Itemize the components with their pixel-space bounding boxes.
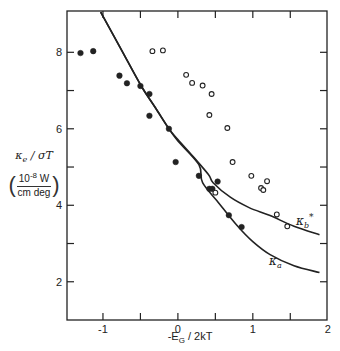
y-tick-label: 2 xyxy=(56,276,62,288)
filled-data-point xyxy=(117,73,123,79)
x-axis-label: -EG / 2kT xyxy=(150,330,230,345)
filled-data-point xyxy=(78,50,84,56)
y-axis-unit-numerator: 10-8 W xyxy=(17,172,51,186)
filled-data-point xyxy=(124,80,130,86)
y-axis-quantity: κe / σT xyxy=(4,150,64,164)
filled-data-point xyxy=(239,224,245,230)
filled-data-point xyxy=(147,113,153,119)
tick-labels: -10122468 xyxy=(56,46,331,335)
x-tick-label: -1 xyxy=(98,323,108,335)
open-data-point xyxy=(200,83,205,88)
filled-data-point xyxy=(166,126,172,132)
filled-data-point xyxy=(138,83,144,89)
y-tick-label: 6 xyxy=(56,123,62,135)
axis-ticks xyxy=(67,11,327,320)
y-tick-label: 8 xyxy=(56,46,62,58)
filled-data-point xyxy=(215,179,221,185)
y-axis-unit: ( 10-8 W cm deg ) xyxy=(4,172,64,197)
open-data-point xyxy=(265,179,270,184)
open-data-point xyxy=(161,48,166,53)
filled-data-point xyxy=(173,159,179,165)
curve-kappa-b-star xyxy=(101,12,320,235)
curve-label-ka: κa xyxy=(269,254,282,270)
curve-kappa-a xyxy=(101,12,320,273)
open-data-point xyxy=(285,224,290,229)
open-data-point xyxy=(213,190,218,195)
open-data-point xyxy=(261,188,266,193)
plot-frame xyxy=(67,11,327,320)
filled-data-point xyxy=(90,48,96,54)
y-tick-label: 4 xyxy=(56,199,62,211)
open-data-point xyxy=(150,49,155,54)
x-tick-label: 2 xyxy=(325,323,331,335)
open-data-point xyxy=(249,173,254,178)
filled-data-point xyxy=(226,212,232,218)
y-axis-unit-denominator: cm deg xyxy=(18,187,51,198)
open-data-point xyxy=(209,92,214,97)
open-data-point xyxy=(184,72,189,77)
open-data-point xyxy=(190,80,195,85)
curve-label-kb-star: κb* xyxy=(296,212,314,230)
open-data-point xyxy=(230,160,235,165)
open-data-point xyxy=(207,113,212,118)
axes-frame xyxy=(67,11,327,320)
open-data-point xyxy=(274,212,279,217)
x-tick-label: 1 xyxy=(250,323,256,335)
y-axis-label: κe / σT ( 10-8 W cm deg ) xyxy=(4,150,64,198)
curves xyxy=(101,12,320,273)
data-points xyxy=(78,48,290,230)
filled-data-point xyxy=(147,91,153,97)
filled-data-point xyxy=(196,173,202,179)
open-data-point xyxy=(225,126,230,131)
